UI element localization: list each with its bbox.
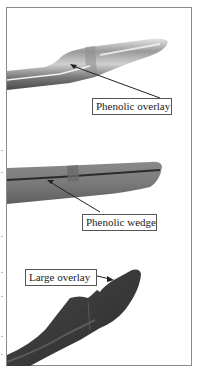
tool-photo-wedge	[0, 125, 199, 250]
label-phenolic-overlay: Phenolic overlay	[92, 98, 172, 115]
label-large-overlay: Large overlay	[25, 269, 97, 286]
panel-large-overlay: Large overlay	[0, 250, 199, 378]
panel-phenolic-wedge: Phenolic wedge	[0, 125, 199, 250]
panel-phenolic-overlay: Phenolic overlay	[0, 0, 199, 125]
label-phenolic-wedge: Phenolic wedge	[82, 214, 157, 231]
